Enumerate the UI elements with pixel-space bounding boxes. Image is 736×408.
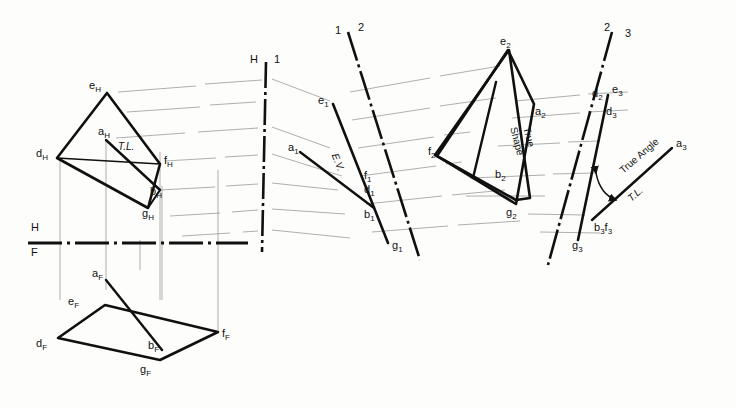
label-e-aux1: e1 xyxy=(318,95,329,109)
top-view-group xyxy=(57,93,160,208)
drawing-canvas xyxy=(0,0,736,408)
label-a-top: aH xyxy=(98,126,110,140)
ref-12-left-label: 1 xyxy=(335,25,341,36)
label-b-front: bF xyxy=(148,340,159,354)
ref-12-right-label: 2 xyxy=(358,22,364,33)
label-g-aux2: g2 xyxy=(506,207,517,221)
ref-23-right-label: 3 xyxy=(625,28,631,39)
label-d-front: dF xyxy=(36,338,47,352)
label-a-aux3: a3 xyxy=(676,138,687,152)
label-f-aux2: f2 xyxy=(428,146,436,160)
ref-23-left-label: 2 xyxy=(604,22,610,33)
label-a-aux2: a2 xyxy=(535,106,546,120)
ref-h1-right-label: 1 xyxy=(274,54,280,65)
front-view-group xyxy=(58,280,218,360)
label-g-top: gH xyxy=(142,208,154,222)
label-bf-aux3: b3f3 xyxy=(594,222,612,236)
label-g-front: gF xyxy=(140,364,151,378)
reference-line-12 xyxy=(348,32,420,260)
label-g-aux3: g3 xyxy=(572,240,583,254)
ref-hf-upper-label: H xyxy=(31,222,39,233)
label-b-aux1: b1 xyxy=(364,209,375,223)
label-f-top: fH xyxy=(164,155,173,169)
label-b-top: bH xyxy=(150,186,162,200)
label-b-aux2: b2 xyxy=(495,169,506,183)
label-e-aux3: e3 xyxy=(612,84,623,98)
drawing-sheet: H F H 1 1 2 2 3 eH dH aH fH bH gH T.L. a… xyxy=(0,0,736,408)
annotation-tl-top: T.L. xyxy=(118,142,134,152)
label-a-front: aF xyxy=(92,268,103,282)
label-e-top: eH xyxy=(89,80,101,94)
true-angle-arc xyxy=(596,173,616,200)
label-f-front: fF xyxy=(222,328,230,342)
label-a-aux1: a1 xyxy=(288,142,299,156)
ref-hf-lower-label: F xyxy=(31,247,38,258)
label-d-top: dH xyxy=(36,148,48,162)
ref-h1-left-label: H xyxy=(250,54,258,65)
label-d-aux1: d1 xyxy=(364,184,375,198)
label-e-front: eF xyxy=(68,296,79,310)
label-d-aux3: d3 xyxy=(606,106,617,120)
label-g-aux1: g1 xyxy=(392,240,403,254)
label-e-aux2: e2 xyxy=(500,36,511,50)
reference-line-h1 xyxy=(262,62,266,252)
label-d-aux2: d2 xyxy=(592,88,603,102)
